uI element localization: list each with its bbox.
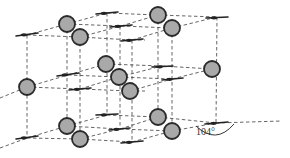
bond-stick <box>57 73 79 76</box>
lattice-diagram <box>0 0 290 158</box>
atom-sphere <box>59 16 75 32</box>
atom-sphere <box>19 79 35 95</box>
lattice-line <box>0 138 27 148</box>
atom-sphere <box>72 131 88 147</box>
atom-sphere <box>164 123 180 139</box>
atom-sphere <box>122 83 138 99</box>
atom-sphere <box>111 69 127 85</box>
bond-stick <box>96 113 118 116</box>
angle-label: 104° <box>196 127 215 137</box>
atom-sphere <box>59 118 75 134</box>
atom-sphere <box>150 109 166 125</box>
atom-sphere <box>72 29 88 45</box>
bond-stick <box>162 78 183 81</box>
dashed-lattice-lines <box>0 13 282 148</box>
atom-sphere <box>164 20 180 36</box>
atom-spheres <box>19 7 220 147</box>
atom-sphere <box>150 7 166 23</box>
atom-sphere <box>98 56 114 72</box>
atom-sphere <box>204 61 220 77</box>
